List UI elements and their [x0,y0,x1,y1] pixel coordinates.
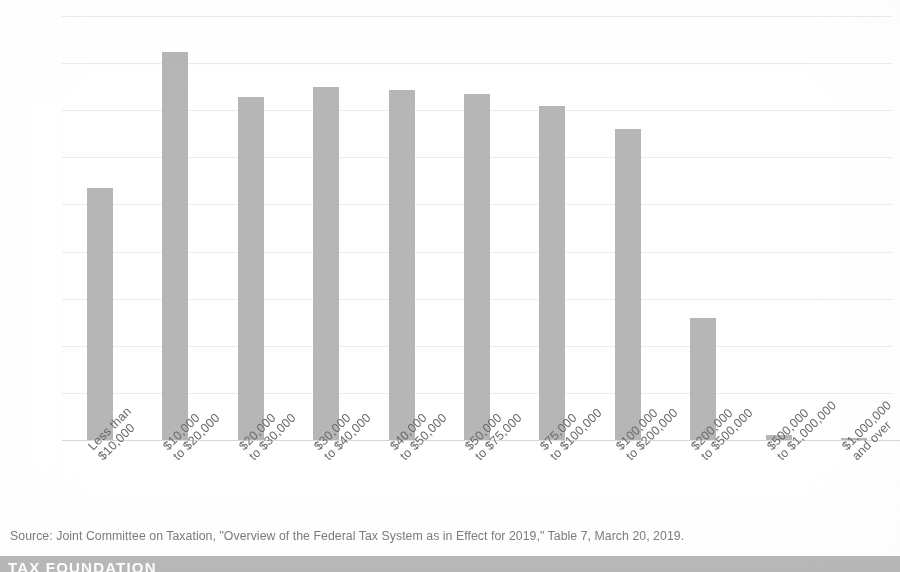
bar[interactable] [313,87,339,440]
bar[interactable] [162,52,188,440]
bar[interactable] [539,106,565,440]
plot-area: 0%10%20%30%40%50%60%70%80%90% [62,16,892,440]
bar-slot [62,16,137,440]
bar[interactable] [87,188,113,440]
bar-slot [137,16,212,440]
bar-slot [741,16,816,440]
bar-slot [666,16,741,440]
tax-foundation-logo-text: TAX FOUNDATION [8,559,157,572]
bar-slot [213,16,288,440]
bar-slot [590,16,665,440]
bar-slot [817,16,892,440]
bar-slot [288,16,363,440]
bar-chart: 0%10%20%30%40%50%60%70%80%90% Less than$… [0,0,900,572]
bar[interactable] [615,129,641,440]
bar-slot [364,16,439,440]
bar[interactable] [238,97,264,440]
bar-slot [439,16,514,440]
source-note: Source: Joint Committee on Taxation, "Ov… [10,529,684,543]
bar-series [62,16,892,440]
bar[interactable] [389,90,415,440]
bar-slot [515,16,590,440]
bar[interactable] [464,94,490,440]
footer-band: TAX FOUNDATION [0,556,900,572]
x-axis-category-labels: Less than$10,000$10,000to $20,000$20,000… [62,444,892,530]
